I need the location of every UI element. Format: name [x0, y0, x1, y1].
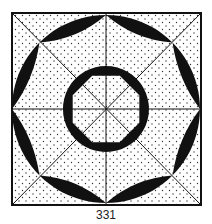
geometric-figure — [0, 0, 212, 224]
figure-caption: 331 — [0, 208, 212, 222]
radial-lines — [12, 13, 201, 205]
